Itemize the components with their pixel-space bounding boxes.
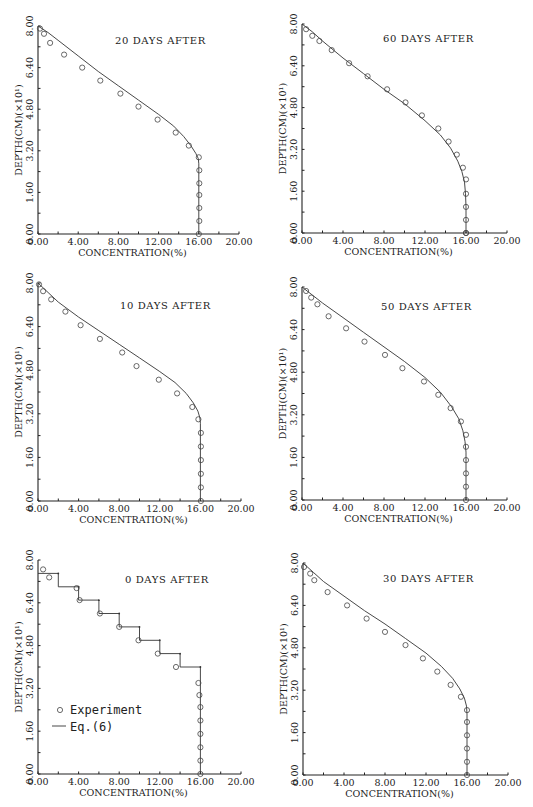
x-tick-label: 4.00 — [333, 777, 354, 788]
y-tick-label: 3.20 — [289, 680, 300, 701]
experiment-point — [198, 458, 203, 463]
panel-title: 10 DAYS AFTER — [120, 300, 211, 311]
y-tick-label: 1.60 — [24, 721, 35, 742]
model-curve — [38, 573, 200, 774]
experiment-point — [458, 419, 463, 424]
experiment-point — [446, 139, 451, 144]
x-tick-label: 4.00 — [332, 235, 353, 246]
experiment-point — [48, 40, 53, 45]
y-tick-label: 6.40 — [24, 57, 35, 78]
step-node — [159, 639, 161, 641]
x-tick-label: 8.00 — [373, 502, 394, 513]
model-curve — [302, 287, 466, 500]
x-tick-label: 20.00 — [227, 503, 254, 514]
experiment-point — [49, 297, 54, 302]
experiment-point — [400, 366, 405, 371]
x-tick-label: 12.00 — [411, 502, 438, 513]
panel-50-days: 50 DAYS AFTER 0.004.008.0012.0016.0020.0… — [277, 276, 521, 524]
y-tick-label: 1.60 — [24, 447, 35, 468]
experiment-point — [197, 181, 202, 186]
step-node — [118, 613, 120, 615]
y-tick-label: 3.20 — [24, 140, 35, 161]
panel-title: 0 DAYS AFTER — [125, 574, 209, 585]
y-axis-label: DEPTH(CM)(×10¹) — [13, 84, 24, 175]
step-node — [57, 572, 59, 574]
x-tick-label: 16.00 — [453, 777, 480, 788]
experiment-point — [136, 104, 141, 109]
experiment-point — [463, 432, 468, 437]
experiment-point — [345, 603, 350, 608]
experiment-point — [421, 379, 426, 384]
experiment-point — [326, 314, 331, 319]
y-axis-label: DEPTH(CM)(×10¹) — [13, 621, 24, 712]
experiment-point — [301, 564, 306, 569]
legend-experiment-label: Experiment — [70, 703, 142, 717]
y-tick-label: 6.40 — [289, 595, 300, 616]
panel-0-days: 0 DAYS AFTER Experiment Eq.(6) 0.004.008… — [13, 549, 255, 798]
experiment-point — [197, 192, 202, 197]
x-tick-label: 12.00 — [411, 235, 438, 246]
x-tick-label: 8.00 — [109, 776, 130, 787]
y-tick-label: 3.20 — [24, 678, 35, 699]
experiment-point — [448, 682, 453, 687]
step-node — [98, 599, 100, 601]
experiment-point — [190, 404, 195, 409]
panel-title: 20 DAYS AFTER — [115, 35, 206, 46]
y-tick-label: 0.00 — [24, 763, 35, 784]
experiment-point — [344, 326, 349, 331]
y-tick-label: 8.00 — [24, 15, 35, 36]
experiment-point — [362, 339, 367, 344]
experiment-point — [309, 295, 314, 300]
x-tick-label: 12.00 — [146, 503, 173, 514]
experiment-point — [419, 113, 424, 118]
y-tick-label: 1.60 — [24, 182, 35, 203]
experiment-point — [173, 664, 178, 669]
x-tick-label: 20.00 — [493, 235, 520, 246]
x-tick-label: 12.00 — [412, 777, 439, 788]
y-tick-label: 0.00 — [289, 764, 300, 785]
experiment-point — [312, 578, 317, 583]
y-tick-label: 1.60 — [288, 447, 299, 468]
experiment-point — [308, 571, 313, 576]
experiment-point — [41, 567, 46, 572]
x-tick-label: 4.00 — [68, 776, 89, 787]
y-tick-label: 4.80 — [24, 99, 35, 120]
y-tick-label: 1.60 — [288, 181, 299, 202]
x-tick-label: 12.00 — [145, 236, 172, 247]
x-tick-label: 20.00 — [225, 236, 252, 247]
experiment-point — [454, 152, 459, 157]
y-axis-label: DEPTH(CM)(×10¹) — [277, 83, 288, 174]
experiment-point — [156, 377, 161, 382]
experiment-point — [198, 485, 203, 490]
y-tick-label: 0.00 — [24, 490, 35, 511]
x-tick-label: 4.00 — [332, 502, 353, 513]
y-tick-label: 6.40 — [288, 55, 299, 76]
experiment-point — [197, 693, 202, 698]
y-tick-label: 8.00 — [24, 549, 35, 570]
y-tick-label: 3.20 — [24, 403, 35, 424]
experiment-point — [97, 336, 102, 341]
x-tick-label: 8.00 — [373, 235, 394, 246]
experiment-point — [197, 205, 202, 210]
x-axis-label: CONCENTRATION(%) — [79, 787, 187, 798]
x-tick-label: 8.00 — [374, 777, 395, 788]
panel-60-days: 60 DAYS AFTER 0.004.008.0012.0016.0020.0… — [277, 13, 521, 257]
experiment-point — [41, 289, 46, 294]
x-tick-label: 20.00 — [493, 502, 520, 513]
experiment-marker-icon — [57, 707, 62, 712]
experiment-point — [198, 471, 203, 476]
experiment-point — [315, 302, 320, 307]
y-tick-label: 8.00 — [288, 13, 299, 34]
experiment-point — [120, 350, 125, 355]
x-tick-label: 8.00 — [108, 236, 129, 247]
x-axis-label: CONCENTRATION(%) — [78, 247, 186, 258]
step-node — [200, 666, 202, 668]
experiment-point — [41, 31, 46, 36]
experiment-point — [435, 669, 440, 674]
model-curve — [302, 24, 466, 233]
legend-model-label: Eq.(6) — [70, 720, 113, 734]
y-axis-label: DEPTH(CM)(×10¹) — [13, 346, 24, 437]
x-tick-label: 12.00 — [146, 776, 173, 787]
step-node — [139, 626, 141, 628]
y-tick-label: 6.40 — [24, 316, 35, 337]
